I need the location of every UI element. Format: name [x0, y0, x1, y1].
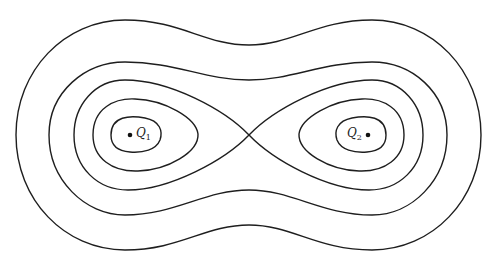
equipotential-diagram: Q1 Q2: [0, 0, 497, 265]
charge-label-q2: Q2: [347, 127, 362, 142]
charge-subscript-q1: 1: [146, 133, 151, 142]
charge-dot-q1: [128, 133, 133, 138]
contour-figure-eight: [74, 80, 423, 190]
contour-plot: [0, 0, 497, 265]
charge-label-q1: Q1: [136, 127, 151, 142]
charge-symbol-q2: Q: [347, 126, 357, 140]
contour-lines: [16, 20, 481, 250]
charge-dot-q2: [366, 133, 371, 138]
charge-subscript-q2: 2: [357, 133, 362, 142]
contour-peanut-contour: [49, 62, 447, 215]
charge-symbol-q1: Q: [136, 126, 146, 140]
